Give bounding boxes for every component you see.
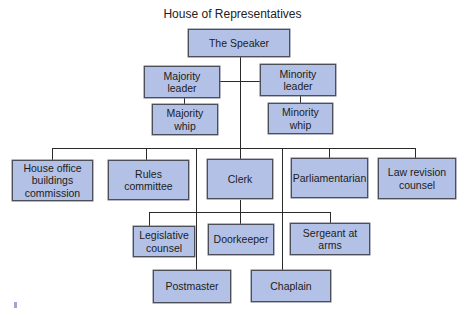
node-postmaster: Postmaster xyxy=(153,270,231,303)
node-label: Majority leader xyxy=(164,70,201,95)
node-minority-leader: Minority leader xyxy=(260,64,336,96)
node-label: The Speaker xyxy=(209,37,269,50)
node-label: Parliamentarian xyxy=(293,172,367,185)
node-speaker: The Speaker xyxy=(188,29,290,57)
connector-speaker-side-right xyxy=(282,148,283,212)
node-label: Doorkeeper xyxy=(214,233,269,246)
connector-house-office xyxy=(52,148,53,160)
node-parliamentarian: Parliamentarian xyxy=(291,158,368,198)
connector-rules xyxy=(146,148,147,160)
connector-clerk-down xyxy=(240,200,241,226)
node-majority-whip: Majority whip xyxy=(152,104,218,135)
connector-officers-bus xyxy=(52,148,416,149)
connector-postmaster xyxy=(196,212,197,270)
connector-leaders xyxy=(220,81,260,82)
node-label: Minority leader xyxy=(280,68,317,93)
connector-chaplain xyxy=(282,212,283,270)
connector-speaker-side xyxy=(196,148,197,212)
connector-legislative xyxy=(149,212,150,226)
node-sergeant: Sergeant at arms xyxy=(290,223,370,255)
node-label: Postmaster xyxy=(165,280,218,293)
chart-title: House of Representatives xyxy=(0,7,465,21)
node-label: Chaplain xyxy=(270,280,311,293)
node-label: Minority whip xyxy=(282,106,319,131)
node-chaplain: Chaplain xyxy=(251,270,331,302)
node-label: Law revision counsel xyxy=(388,166,446,191)
node-label: Legislative counsel xyxy=(139,229,189,254)
node-minority-whip: Minority whip xyxy=(268,103,333,134)
node-label: Sergeant at arms xyxy=(303,227,357,252)
node-clerk: Clerk xyxy=(207,159,273,199)
scan-artifact-mark xyxy=(14,302,17,308)
node-house-office: House office buildings commission xyxy=(12,160,93,201)
node-label: Clerk xyxy=(228,173,253,186)
connector-staff-bus xyxy=(149,212,330,213)
node-law-revision: Law revision counsel xyxy=(378,158,456,199)
node-label: House office buildings commission xyxy=(23,162,81,200)
connector-majority-whip xyxy=(184,97,185,104)
node-legislative: Legislative counsel xyxy=(133,226,195,257)
node-majority-leader: Majority leader xyxy=(144,66,220,98)
connector-speaker-trunk xyxy=(240,56,241,148)
node-doorkeeper: Doorkeeper xyxy=(208,224,274,255)
node-label: Majority whip xyxy=(167,107,204,132)
node-rules: Rules committee xyxy=(108,160,189,200)
connector-minority-whip xyxy=(300,96,301,103)
node-label: Rules committee xyxy=(124,168,172,193)
